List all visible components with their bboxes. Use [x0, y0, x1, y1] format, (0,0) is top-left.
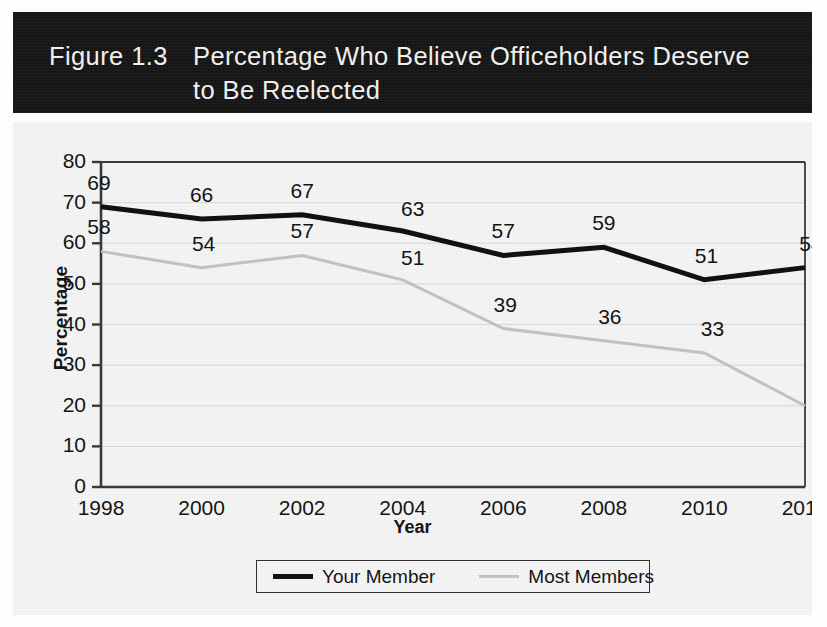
data-point-label: 54 — [799, 232, 812, 256]
chart-plot-svg — [13, 122, 812, 615]
data-point-label: 59 — [592, 211, 615, 235]
data-point-label: 66 — [190, 183, 213, 207]
chart-legend: Your Member Most Members — [256, 560, 650, 593]
y-tick-label: 10 — [40, 433, 86, 457]
figure-number: Figure 1.3 — [49, 42, 168, 71]
x-tick-label: 2012 — [760, 496, 812, 520]
data-point-label: 67 — [290, 179, 313, 203]
legend-label-most-members: Most Members — [528, 566, 654, 588]
chart-area: Percentage Year 01020304050607080 199820… — [13, 122, 812, 615]
y-tick-label: 0 — [40, 474, 86, 498]
x-tick-label: 1998 — [56, 496, 146, 520]
x-tick-label: 2000 — [157, 496, 247, 520]
x-tick-label: 2004 — [358, 496, 448, 520]
y-tick-label: 30 — [40, 352, 86, 376]
data-point-label: 33 — [701, 317, 724, 341]
data-point-label: 54 — [192, 232, 215, 256]
y-tick-label: 50 — [40, 271, 86, 295]
figure-container: Figure 1.3 Percentage Who Believe Office… — [0, 0, 827, 627]
x-tick-label: 2010 — [659, 496, 749, 520]
data-point-label: 57 — [492, 219, 515, 243]
legend-entry-your-member: Your Member — [273, 566, 435, 588]
y-tick-label: 80 — [40, 149, 86, 173]
data-point-label: 58 — [87, 215, 110, 239]
data-point-label: 36 — [598, 305, 621, 329]
data-point-label: 51 — [695, 244, 718, 268]
x-tick-label: 2002 — [257, 496, 347, 520]
figure-title-bar: Figure 1.3 Percentage Who Believe Office… — [13, 12, 812, 113]
x-tick-label: 2008 — [559, 496, 649, 520]
legend-line-swatch-most-members — [479, 575, 519, 578]
legend-label-your-member: Your Member — [322, 566, 435, 588]
data-point-label: 39 — [494, 293, 517, 317]
axis-ticks — [92, 162, 101, 487]
data-point-label: 69 — [87, 171, 110, 195]
legend-line-swatch-your-member — [273, 574, 313, 579]
legend-entry-most-members: Most Members — [479, 566, 654, 588]
data-point-label: 57 — [290, 219, 313, 243]
x-axis-title: Year — [13, 517, 812, 538]
data-point-label: 51 — [401, 246, 424, 270]
y-tick-label: 70 — [40, 190, 86, 214]
y-tick-label: 60 — [40, 230, 86, 254]
data-point-label: 63 — [401, 197, 424, 221]
figure-title-line-2: to Be Reelected — [193, 76, 380, 105]
y-tick-label: 40 — [40, 312, 86, 336]
x-tick-label: 2006 — [458, 496, 548, 520]
figure-title-line-1: Percentage Who Believe Officeholders Des… — [193, 42, 750, 71]
y-tick-label: 20 — [40, 393, 86, 417]
